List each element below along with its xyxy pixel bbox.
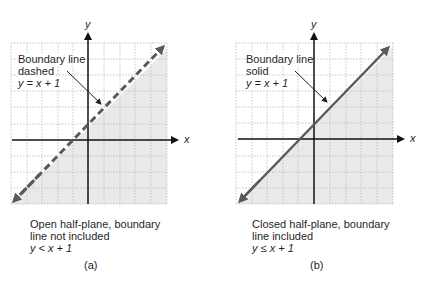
annotation-b-line2: solid xyxy=(246,65,269,77)
panel-label-a: (a) xyxy=(84,259,97,271)
annotation-a-line1: Boundary line xyxy=(18,53,85,65)
caption-a-inequality: y < x + 1 xyxy=(30,242,72,254)
annotation-b-equation: y = x + 1 xyxy=(246,77,288,89)
caption-b-line2: line included xyxy=(252,230,313,242)
y-axis-label-b: y xyxy=(311,18,317,30)
annotation-a-equation: y = x + 1 xyxy=(18,77,60,89)
x-axis-label-a: x xyxy=(184,133,190,145)
annotation-b-line1: Boundary line xyxy=(246,53,313,65)
caption-b-inequality: y ≤ x + 1 xyxy=(252,242,294,254)
caption-b-line1: Closed half-plane, boundary xyxy=(252,218,390,230)
panel-label-b: (b) xyxy=(310,259,323,271)
y-axis-label-a: y xyxy=(85,18,91,30)
pointer-arrow-b xyxy=(295,71,327,102)
x-axis-label-b: x xyxy=(410,132,416,144)
pointer-arrow-a xyxy=(67,71,101,104)
caption-a-line2: line not included xyxy=(30,230,110,242)
caption-a-line1: Open half-plane, boundary xyxy=(30,218,160,230)
annotation-a-line2: dashed xyxy=(18,65,54,77)
